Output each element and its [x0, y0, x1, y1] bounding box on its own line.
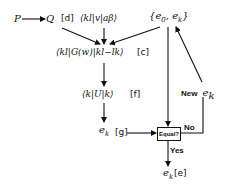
ek-final-sub: k: [169, 173, 173, 181]
edge-label-new-ek: New ek: [181, 83, 215, 101]
edge-label-yes: Yes: [170, 147, 184, 155]
new-prefix: New: [181, 89, 197, 98]
arrow-d-to-g: [62, 28, 100, 44]
edge-label-no: No: [184, 124, 195, 132]
ek-mid-sub: k: [105, 130, 109, 138]
node-p: P: [14, 14, 21, 24]
node-matrix-u: ⟨k|U|k⟩: [82, 90, 114, 99]
new-ek-sub: k: [208, 90, 214, 101]
tag-d: [d]: [61, 14, 74, 23]
node-ek-mid: ek: [99, 125, 109, 138]
node-matrix-v: ⟨kl|v|aβ⟩: [80, 14, 117, 23]
brace-close: }: [182, 10, 188, 21]
arrow-new-ek-to-energies: [176, 27, 202, 82]
node-matrix-g: ⟨kl|G(w)|kl−lk⟩: [56, 48, 124, 57]
equal-decision-box: Equal?: [157, 127, 181, 141]
arrow-energies-to-g: [110, 27, 160, 44]
node-energies: {e0, ek}: [149, 11, 189, 24]
node-ek-final: ek: [163, 168, 173, 181]
tag-c: [c]: [137, 48, 149, 57]
node-q: Q: [46, 14, 54, 24]
tag-e: [e]: [174, 169, 187, 178]
tag-f: [f]: [130, 90, 140, 99]
tag-g: [g]: [115, 128, 128, 137]
